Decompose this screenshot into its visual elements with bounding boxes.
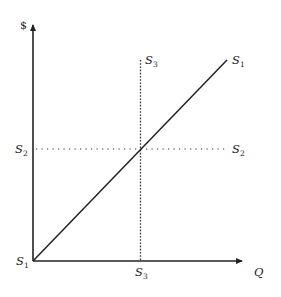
- s2-label-right: S2: [232, 142, 245, 158]
- s3-label-top: S3: [145, 53, 158, 69]
- s3-label-bottom: S3: [135, 265, 148, 281]
- y-axis-label: $: [20, 19, 27, 32]
- s1-curve: [33, 60, 227, 261]
- x-axis-label: Q: [254, 265, 264, 279]
- s1-label: S1: [232, 53, 245, 69]
- supply-diagram: $ Q S2 S2 S3 S3 S1 S1: [0, 0, 281, 297]
- origin-label: S1: [16, 254, 29, 270]
- s2-label-left: S2: [15, 142, 28, 158]
